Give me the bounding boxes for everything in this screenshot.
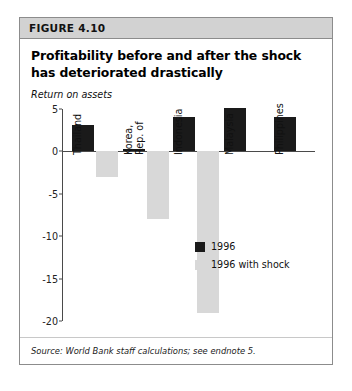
- chart-plot-area: 50-5-10-15-20ThailandKorea,Rep. ofIndone…: [20, 103, 332, 328]
- y-axis-tick-mark: [59, 151, 62, 152]
- legend-item-1996-with-shock: 1996 with shock: [195, 259, 290, 270]
- figure-title: Profitability before and after the shock…: [31, 48, 320, 81]
- y-axis-line: [62, 109, 63, 321]
- chart-legend: 1996 1996 with shock: [195, 241, 290, 277]
- figure-header: FIGURE 4.10: [20, 18, 332, 39]
- y-axis-tick-mark: [59, 109, 62, 110]
- y-axis-tick-label: -20: [42, 316, 58, 327]
- source-note: Source: World Bank staff calculations; s…: [31, 346, 256, 356]
- legend-label-1996: 1996: [211, 241, 235, 252]
- legend-item-1996: 1996: [195, 241, 290, 252]
- legend-swatch-icon-1996-with-shock: [195, 260, 205, 270]
- y-axis-tick-label: -15: [42, 273, 58, 284]
- x-axis-category-label: Korea,Rep. of: [124, 122, 145, 156]
- x-axis-category-label: Philippines: [275, 104, 286, 156]
- x-axis-category-label: Malaysia: [225, 113, 236, 155]
- figure-card: FIGURE 4.10 Profitability before and aft…: [19, 17, 333, 365]
- y-axis-tick-label: -10: [42, 231, 58, 242]
- source-divider: [20, 337, 332, 338]
- y-axis-tick-label: 0: [52, 146, 58, 157]
- chart-canvas: 50-5-10-15-20ThailandKorea,Rep. ofIndone…: [62, 109, 315, 321]
- bar-indonesia-1996-with-shock: [197, 151, 219, 312]
- y-axis-tick-mark: [59, 236, 62, 237]
- y-axis-tick-mark: [59, 321, 62, 322]
- y-axis-tick-mark: [59, 193, 62, 194]
- y-axis-tick-label: -5: [48, 188, 58, 199]
- x-axis-category-label: Indonesia: [174, 109, 185, 155]
- bar-thailand-1996-with-shock: [96, 151, 118, 176]
- y-axis-title: Return on assets: [31, 89, 332, 100]
- x-axis-category-label: Thailand: [73, 114, 84, 155]
- bar-korea-rep-of-1996-with-shock: [147, 151, 169, 219]
- figure-label: FIGURE 4.10: [29, 22, 105, 34]
- y-axis-tick-label: 5: [52, 104, 58, 115]
- y-axis-tick-mark: [59, 278, 62, 279]
- legend-label-1996-with-shock: 1996 with shock: [211, 259, 290, 270]
- legend-swatch-icon-1996: [195, 242, 205, 252]
